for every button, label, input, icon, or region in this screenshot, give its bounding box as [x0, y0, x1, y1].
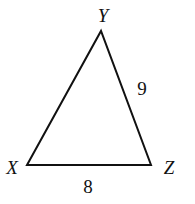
vertex-label-x: X — [5, 157, 19, 178]
triangle-diagram: Y X Z 8 9 — [0, 0, 195, 204]
side-label-yz: 9 — [137, 78, 147, 99]
triangle-xyz — [27, 31, 151, 165]
vertex-label-y: Y — [98, 5, 111, 26]
vertex-label-z: Z — [164, 157, 175, 178]
side-label-xz: 8 — [83, 176, 93, 197]
